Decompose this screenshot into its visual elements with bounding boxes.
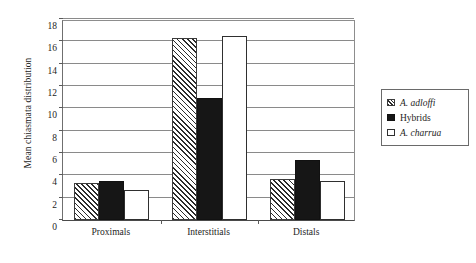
legend-item: A. adloffi bbox=[387, 95, 462, 110]
plot-area: 024681012141618 bbox=[62, 20, 355, 221]
x-tick-mark bbox=[161, 220, 162, 224]
legend-swatch-icon bbox=[387, 129, 395, 136]
legend-label: Hybrids bbox=[400, 113, 431, 123]
legend-swatch-icon bbox=[387, 99, 395, 106]
bar bbox=[295, 160, 320, 220]
bar bbox=[74, 183, 99, 220]
bar bbox=[197, 98, 222, 220]
legend-label: A. adloffi bbox=[400, 98, 435, 108]
legend-item: Hybrids bbox=[387, 110, 462, 125]
x-axis-labels: ProximalsInterstitialsDistals bbox=[62, 227, 355, 243]
bar bbox=[99, 181, 124, 220]
legend-item: A. charrua bbox=[387, 125, 462, 140]
bar bbox=[222, 36, 247, 220]
bar-chart-figure: Mean chiasmata distribution 024681012141… bbox=[0, 0, 476, 263]
bar bbox=[270, 179, 295, 220]
bar bbox=[320, 181, 345, 220]
gridline bbox=[63, 18, 354, 19]
y-axis-title: Mean chiasmata distribution bbox=[23, 33, 33, 193]
chart-legend: A. adloffiHybridsA. charrua bbox=[381, 89, 469, 146]
x-tick-mark bbox=[258, 220, 259, 224]
legend-label: A. charrua bbox=[400, 128, 441, 138]
bars-layer bbox=[63, 21, 354, 220]
x-axis-category-label: Distals bbox=[293, 227, 319, 237]
x-axis-category-label: Interstitials bbox=[187, 227, 230, 237]
bar bbox=[172, 38, 197, 220]
bar bbox=[124, 190, 149, 220]
legend-swatch-icon bbox=[387, 114, 395, 121]
y-tick-mark bbox=[59, 18, 63, 19]
x-axis-category-label: Proximals bbox=[92, 227, 131, 237]
